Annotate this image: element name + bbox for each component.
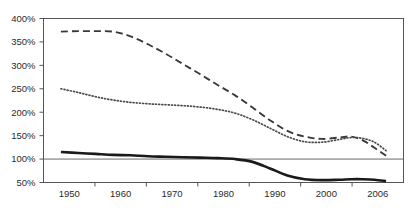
y-axis-tick-label: 400% xyxy=(11,13,36,24)
series-line-solid-series xyxy=(61,152,386,181)
x-axis-tick-label: 1990 xyxy=(264,188,285,199)
y-axis-tick-label: 200% xyxy=(11,107,36,118)
series-line-dashed-series xyxy=(61,31,386,156)
chart-container: 50%100%150%200%250%300%350%400%195019601… xyxy=(0,0,417,210)
y-axis-tick-label: 50% xyxy=(16,177,36,188)
x-axis-tick-label: 1950 xyxy=(59,188,80,199)
y-axis-tick-label: 250% xyxy=(11,83,36,94)
line-chart: 50%100%150%200%250%300%350%400%195019601… xyxy=(0,0,417,210)
y-axis-tick-label: 350% xyxy=(11,36,36,47)
x-axis-tick-label: 1970 xyxy=(162,188,183,199)
x-axis-tick-label: 2006 xyxy=(367,188,388,199)
y-axis-tick-label: 300% xyxy=(11,60,36,71)
y-axis-tick-label: 100% xyxy=(11,153,36,164)
x-axis-tick-label: 1980 xyxy=(213,188,234,199)
y-axis-tick-label: 150% xyxy=(11,130,36,141)
series-line-dotted-series xyxy=(61,89,386,151)
x-axis-tick-label: 2000 xyxy=(316,188,337,199)
x-axis-tick-label: 1960 xyxy=(110,188,131,199)
